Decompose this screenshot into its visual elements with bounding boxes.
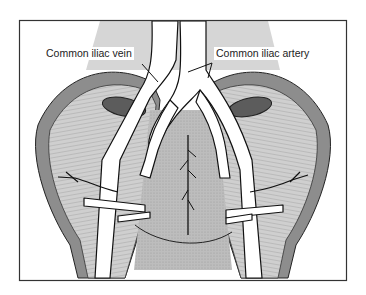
diagram-canvas bbox=[0, 0, 366, 295]
label-common-iliac-artery: Common iliac artery bbox=[214, 47, 311, 60]
label-common-iliac-vein: Common iliac vein bbox=[44, 47, 134, 60]
anatomy-diagram: Common iliac vein Common iliac artery bbox=[0, 0, 366, 295]
